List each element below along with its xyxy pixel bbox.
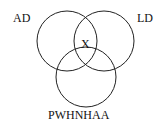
- set-label-ad: AD: [13, 12, 30, 24]
- set-label-ld: LD: [137, 12, 153, 24]
- intersection-label: X: [81, 38, 90, 50]
- set-label-pwhnhaa: PWHNHAA: [48, 109, 109, 121]
- circle-pwhnhaa: [56, 47, 116, 107]
